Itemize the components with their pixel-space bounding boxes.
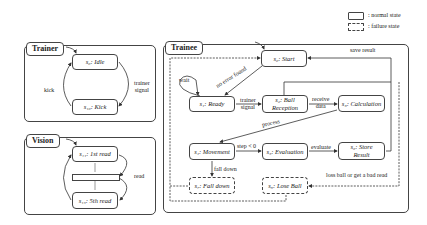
transition-arrows (0, 0, 427, 225)
